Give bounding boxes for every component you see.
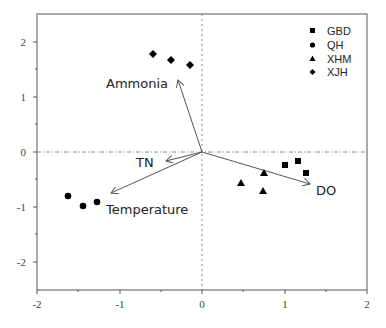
series-xjh [149,50,194,69]
point-gbd [295,158,301,164]
legend-marker-circle [310,42,315,47]
point-xjh [186,61,194,69]
point-xhm [259,187,267,194]
point-xhm [237,179,245,186]
y-tick-label: 0 [21,146,27,158]
x-axis [37,290,367,294]
legend-marker-square [310,28,315,33]
x-tick-label: -1 [115,298,124,310]
point-qh [80,203,87,210]
point-xjh [167,56,175,64]
y-tick-label: -2 [17,256,26,268]
legend-marker-triangle [310,56,316,62]
vector-label-ammonia: Ammonia [106,76,168,91]
point-xjh [149,50,157,58]
y-tick-label: 2 [21,36,27,48]
vector-label-temperature: Temperature [105,202,188,217]
point-qh [94,199,101,206]
x-tick-label: 2 [364,298,370,310]
vectors [111,80,310,193]
point-gbd [282,162,288,168]
series-qh [65,193,101,210]
legend-label-gbd: GBD [327,25,351,37]
legend: GBD QH XHM XJH [310,25,352,78]
vector-ammonia-arrow [178,80,202,152]
legend-label-xjh: XJH [327,66,348,78]
legend-marker-diamond [310,69,316,75]
x-tick-label: -2 [32,298,41,310]
series-xhm [237,169,268,194]
vector-label-tn: TN [135,155,154,170]
x-tick-label: 1 [282,298,288,310]
vector-label-do: DO [316,183,336,198]
series-gbd [282,158,309,176]
vector-do-arrow [202,152,310,184]
y-tick-label: 1 [21,91,27,103]
legend-label-xhm: XHM [327,53,351,65]
legend-label-qh: QH [327,39,344,51]
biplot-chart: 2 1 0 -1 -2 -2 -1 0 1 2 Ammonia TN Tempe… [0,0,386,328]
point-qh [65,193,72,200]
y-tick-label: -1 [17,201,26,213]
vector-temperature-arrow [111,152,202,193]
x-tick-label: 0 [199,298,205,310]
y-axis [33,42,37,262]
point-gbd [303,170,309,176]
